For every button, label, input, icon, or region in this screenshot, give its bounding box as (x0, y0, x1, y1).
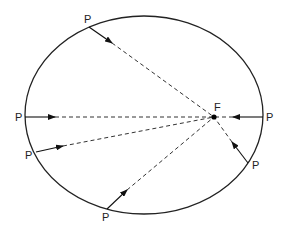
dashed-ray (214, 117, 232, 142)
force-arrow (107, 190, 127, 209)
point-label: P (102, 211, 109, 223)
point-label: P (266, 111, 273, 123)
rays-group (25, 27, 263, 209)
point-label: P (15, 111, 22, 123)
ellipse-focus-diagram: PPPPPP F (0, 0, 287, 230)
point-label: P (25, 149, 32, 161)
dashed-ray (112, 43, 214, 117)
ellipse-outline (25, 16, 263, 214)
focus-label: F (214, 101, 221, 113)
labels-group: PPPPPP (15, 13, 273, 223)
force-arrow (232, 142, 248, 163)
dashed-ray (127, 117, 214, 190)
point-label: P (84, 13, 91, 25)
force-arrow (89, 27, 112, 43)
dashed-ray (63, 117, 214, 146)
focus-point (211, 114, 216, 119)
point-label: P (252, 159, 259, 171)
force-arrow (36, 146, 63, 152)
